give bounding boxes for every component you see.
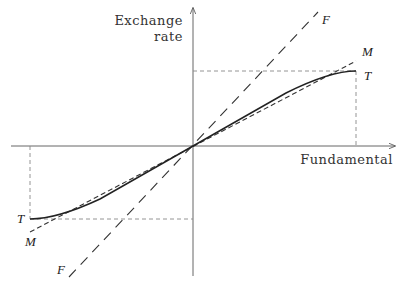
x-axis-label: Fundamental <box>300 152 393 167</box>
y-axis-label-line1: Exchange <box>114 13 183 28</box>
label-t-lower: T <box>17 211 25 226</box>
label-t-upper: T <box>364 68 372 83</box>
label-m-lower: M <box>24 234 37 249</box>
label-m-upper: M <box>361 44 374 59</box>
label-f-lower: F <box>56 262 66 277</box>
y-axis-label-line2: rate <box>154 29 183 44</box>
label-f-upper: F <box>321 12 331 27</box>
target-zone-diagram: Exchange rate Fundamental F M T T M F <box>0 0 405 291</box>
